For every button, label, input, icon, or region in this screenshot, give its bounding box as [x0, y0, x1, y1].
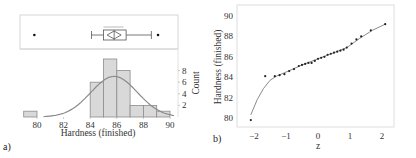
- histogram-panel: 808284868890 2468 Hardness (finished) Co…: [3, 15, 201, 153]
- svg-text:2: 2: [182, 100, 187, 110]
- data-point: [346, 47, 348, 49]
- data-point: [304, 63, 306, 65]
- data-point: [293, 68, 295, 70]
- svg-text:84: 84: [224, 72, 234, 82]
- data-point: [330, 53, 332, 55]
- panel-label-a: a): [3, 141, 11, 153]
- histogram-bar: [104, 59, 117, 117]
- data-point: [339, 50, 341, 52]
- count-axis-ticks: 2468: [178, 66, 187, 111]
- data-point: [283, 73, 285, 75]
- svg-text:90: 90: [166, 120, 176, 130]
- hardness-axis-label: Hardness (finished): [213, 30, 224, 105]
- data-point: [307, 62, 309, 64]
- panel-label-b: b): [213, 133, 221, 145]
- outlier-point: [157, 34, 160, 37]
- svg-text:82: 82: [224, 93, 233, 103]
- histogram-bar: [24, 111, 37, 117]
- data-point: [288, 70, 290, 72]
- hardness-axis-ticks: 808284868890: [224, 11, 234, 123]
- data-point: [311, 62, 313, 64]
- z-axis-ticks: −2−1012: [249, 131, 384, 141]
- normal-quantile-panel: −2−1012 808284868890 z Hardness (finishe…: [213, 5, 394, 151]
- data-point: [351, 42, 353, 44]
- boxplot: [33, 27, 159, 40]
- fit-curve: [251, 24, 385, 115]
- svg-text:4: 4: [182, 89, 187, 99]
- data-point: [298, 65, 300, 67]
- svg-text:−2: −2: [249, 131, 259, 141]
- count-axis-label: Count: [191, 71, 201, 95]
- data-point: [314, 60, 316, 62]
- figure: 808284868890 2468 Hardness (finished) Co…: [0, 0, 416, 158]
- histogram-bar: [90, 82, 103, 117]
- x-axis-label: Hardness (finished): [61, 128, 136, 139]
- data-point: [327, 54, 329, 56]
- z-axis-label: z: [316, 141, 320, 151]
- data-point: [274, 75, 276, 77]
- histogram-bar: [130, 105, 143, 117]
- svg-text:88: 88: [224, 31, 234, 41]
- data-point: [279, 74, 281, 76]
- svg-text:6: 6: [182, 77, 187, 87]
- data-point: [370, 29, 372, 31]
- data-point: [355, 38, 357, 40]
- svg-text:80: 80: [224, 113, 234, 123]
- svg-text:86: 86: [224, 52, 234, 62]
- data-point: [360, 35, 362, 37]
- data-point: [317, 58, 319, 60]
- svg-text:1: 1: [348, 131, 353, 141]
- svg-text:0: 0: [316, 131, 321, 141]
- svg-text:90: 90: [224, 11, 234, 21]
- data-points: [250, 23, 387, 121]
- data-point: [336, 51, 338, 53]
- data-point: [250, 119, 252, 121]
- outlier-point: [33, 34, 36, 37]
- svg-text:88: 88: [139, 120, 149, 130]
- data-point: [343, 49, 345, 51]
- svg-text:2: 2: [380, 131, 385, 141]
- data-point: [301, 64, 303, 66]
- data-point: [384, 23, 386, 25]
- svg-text:8: 8: [182, 66, 187, 76]
- data-point: [323, 56, 325, 58]
- boxplot-frame: [20, 15, 178, 49]
- data-point: [333, 52, 335, 54]
- svg-text:−1: −1: [281, 131, 291, 141]
- svg-text:80: 80: [33, 120, 43, 130]
- histogram-bars: [24, 59, 170, 117]
- data-point: [320, 57, 322, 59]
- data-point: [264, 75, 266, 77]
- histogram-bar: [143, 105, 156, 117]
- plot-frame: [237, 5, 394, 127]
